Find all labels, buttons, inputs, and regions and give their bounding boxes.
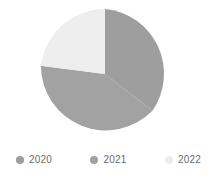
pie-svg [0,0,217,146]
pie-slice-2022[interactable] [41,9,105,74]
legend-item-label: 2020 [29,154,52,166]
circle-marker-icon [90,156,98,164]
legend-item-2020[interactable]: 2020 [16,154,52,166]
legend-item-2021[interactable]: 2021 [90,154,126,166]
pie-chart-figure: 2020 2021 2022 [0,0,217,174]
legend-item-2022[interactable]: 2022 [165,154,201,166]
circle-marker-icon [16,156,24,164]
chart-legend: 2020 2021 2022 [0,148,217,172]
pie-plot-area [0,0,217,146]
circle-marker-icon [165,156,173,164]
legend-item-label: 2021 [103,154,126,166]
legend-item-label: 2022 [178,154,201,166]
